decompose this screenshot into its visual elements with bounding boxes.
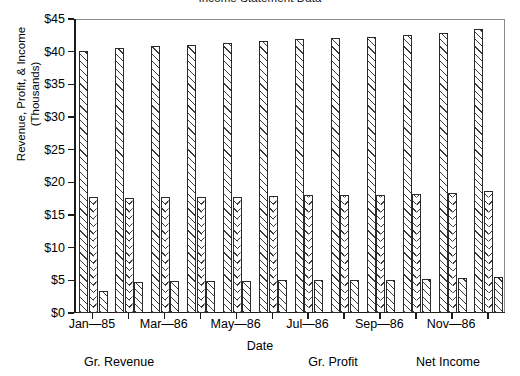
bar-gr-revenue[interactable] <box>403 35 412 313</box>
plot-area: $0$5$10$15$20$25$30$35$40$45 <box>74 19 505 313</box>
bar-group <box>187 19 215 313</box>
bar-group <box>115 19 143 313</box>
y-axis-title: Revenue, Profit, & Income (Thousands) <box>14 0 42 204</box>
bar-gr-profit[interactable] <box>197 197 206 313</box>
bar-gr-profit[interactable] <box>340 195 349 313</box>
x-axis-tick-label: Jul—86 <box>286 318 328 331</box>
x-axis-tick-label: Sep—86 <box>355 318 404 331</box>
bar-gr-profit[interactable] <box>269 196 278 313</box>
x-axis-tick-label: Mar—86 <box>140 318 188 331</box>
y-axis-tick-label: $20 <box>17 176 65 189</box>
bar-gr-revenue[interactable] <box>367 37 376 313</box>
bar-gr-profit[interactable] <box>304 195 313 313</box>
bar-net-income[interactable] <box>242 281 251 313</box>
bar-gr-profit[interactable] <box>233 197 242 313</box>
bar-gr-revenue[interactable] <box>331 38 340 313</box>
bar-gr-revenue[interactable] <box>151 46 160 313</box>
y-axis-tick-label: $10 <box>17 241 65 254</box>
bar-net-income[interactable] <box>494 277 503 313</box>
y-axis-title-line2: (Thousands) <box>28 0 42 204</box>
bar-net-income[interactable] <box>458 278 467 313</box>
legend-item-gr-revenue[interactable]: Gr. Revenue <box>84 355 154 369</box>
x-axis-tick <box>272 313 274 319</box>
bar-gr-revenue[interactable] <box>259 41 268 313</box>
legend-item-gr-profit[interactable]: Gr. Profit <box>308 355 357 369</box>
x-axis-tick-label: May—86 <box>211 318 261 331</box>
bar-gr-revenue[interactable] <box>295 39 304 313</box>
chart-title: Income Statement Data <box>0 0 520 4</box>
bar-gr-revenue[interactable] <box>474 29 483 313</box>
bar-net-income[interactable] <box>350 280 359 313</box>
x-axis-title: Date <box>0 339 520 353</box>
bar-group <box>439 19 467 313</box>
bar-group <box>223 19 251 313</box>
x-axis-tick <box>128 313 130 319</box>
bar-net-income[interactable] <box>422 279 431 313</box>
x-axis-tick-label: Nov—86 <box>427 318 476 331</box>
bar-net-income[interactable] <box>99 291 108 313</box>
bar-group <box>259 19 287 313</box>
x-axis-tick <box>487 313 489 319</box>
x-axis-tick-label: Jan—85 <box>69 318 116 331</box>
bar-gr-revenue[interactable] <box>223 43 232 313</box>
bar-gr-profit[interactable] <box>376 195 385 313</box>
bar-gr-revenue[interactable] <box>439 33 448 313</box>
y-axis-tick-label: $30 <box>17 111 65 124</box>
y-axis-tick-label: $40 <box>17 45 65 58</box>
bar-group <box>79 19 107 313</box>
bar-gr-profit[interactable] <box>89 197 98 313</box>
y-axis-tick-label: $5 <box>17 274 65 287</box>
bar-gr-profit[interactable] <box>161 197 170 313</box>
bar-groups <box>74 19 505 313</box>
bar-net-income[interactable] <box>170 281 179 313</box>
y-axis-tick-label: $25 <box>17 143 65 156</box>
y-axis-tick-label: $0 <box>17 307 65 320</box>
bar-gr-profit[interactable] <box>125 198 134 313</box>
bar-net-income[interactable] <box>386 280 395 313</box>
y-axis-tick-label: $35 <box>17 78 65 91</box>
bar-group <box>295 19 323 313</box>
y-axis-tick-label: $45 <box>17 13 65 26</box>
income-statement-chart: Income Statement Data Revenue, Profit, &… <box>0 0 520 376</box>
x-axis-tick <box>200 313 202 319</box>
bar-gr-revenue[interactable] <box>79 51 88 313</box>
bar-net-income[interactable] <box>278 280 287 313</box>
bar-gr-profit[interactable] <box>412 194 421 313</box>
bar-gr-profit[interactable] <box>484 191 493 313</box>
bar-net-income[interactable] <box>134 282 143 313</box>
bar-gr-revenue[interactable] <box>187 45 196 313</box>
bar-group <box>474 19 502 313</box>
x-axis-tick <box>415 313 417 319</box>
legend-item-net-income[interactable]: Net Income <box>416 355 480 369</box>
bar-gr-revenue[interactable] <box>115 48 124 313</box>
bar-group <box>331 19 359 313</box>
bar-net-income[interactable] <box>314 280 323 313</box>
bar-group <box>367 19 395 313</box>
y-axis-tick-label: $15 <box>17 209 65 222</box>
bar-group <box>151 19 179 313</box>
bar-group <box>403 19 431 313</box>
bar-gr-profit[interactable] <box>448 193 457 313</box>
bar-net-income[interactable] <box>206 281 215 313</box>
x-axis-tick <box>343 313 345 319</box>
